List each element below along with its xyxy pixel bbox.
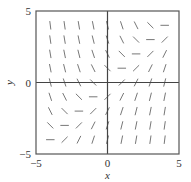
x-tick-label: −5 bbox=[30, 157, 42, 169]
slope-segment bbox=[134, 22, 138, 30]
slope-segment bbox=[121, 121, 123, 129]
slope-segment bbox=[135, 93, 138, 101]
slope-segment bbox=[92, 21, 94, 29]
slope-segment bbox=[77, 136, 81, 144]
slope-segment bbox=[164, 135, 165, 143]
slope-segment bbox=[78, 50, 80, 58]
slope-segment bbox=[62, 137, 68, 143]
slope-segment bbox=[119, 51, 125, 57]
slope-segment bbox=[120, 21, 123, 29]
x-tick-label: 5 bbox=[176, 157, 182, 169]
slope-segment bbox=[76, 122, 82, 128]
y-tick-labels: −505 bbox=[19, 5, 31, 160]
slope-segment bbox=[133, 65, 139, 71]
slope-segment bbox=[135, 121, 137, 129]
slope-segment bbox=[50, 35, 51, 43]
y-tick-label: 5 bbox=[26, 5, 32, 17]
slope-segment bbox=[120, 93, 124, 101]
slope-segment bbox=[50, 21, 51, 29]
slope-segment bbox=[92, 35, 94, 43]
slope-segment bbox=[64, 50, 66, 58]
slope-segment bbox=[63, 93, 67, 101]
slope-segment bbox=[92, 136, 95, 144]
slope-segment bbox=[50, 50, 51, 58]
slope-segment bbox=[149, 93, 151, 101]
slope-segment bbox=[150, 135, 151, 143]
slope-segment bbox=[64, 35, 65, 43]
x-axis-label: x bbox=[104, 169, 110, 181]
slope-segment bbox=[163, 50, 167, 58]
slope-segment bbox=[62, 108, 68, 114]
slope-segment bbox=[120, 107, 123, 115]
x-tick-labels: −505 bbox=[30, 157, 182, 169]
slope-segment bbox=[47, 122, 53, 128]
slope-segment bbox=[64, 21, 65, 29]
slope-segment bbox=[92, 50, 95, 58]
slope-segment bbox=[78, 64, 81, 72]
slope-field-chart: −505 −505 x y bbox=[0, 0, 191, 182]
slope-segment bbox=[133, 37, 139, 43]
slope-segment bbox=[147, 51, 153, 57]
slope-segment bbox=[150, 121, 151, 129]
slope-segment bbox=[162, 37, 168, 43]
y-tick-label: 0 bbox=[26, 77, 32, 89]
slope-segment bbox=[48, 107, 52, 115]
slope-segment bbox=[149, 64, 153, 72]
slope-segment bbox=[164, 107, 165, 115]
slope-segment bbox=[120, 36, 124, 44]
slope-segment bbox=[49, 93, 52, 101]
slope-segment bbox=[135, 136, 136, 144]
slope-segment bbox=[91, 64, 95, 72]
slope-segment bbox=[49, 64, 51, 72]
slope-segment bbox=[164, 121, 165, 129]
slope-segment bbox=[163, 64, 166, 72]
y-tick-label: −5 bbox=[19, 148, 31, 160]
slope-segment bbox=[64, 64, 66, 72]
slope-segment bbox=[91, 122, 95, 130]
slope-segment bbox=[78, 21, 79, 29]
x-tick-label: 0 bbox=[105, 157, 111, 169]
slope-segment bbox=[121, 136, 123, 144]
slope-segment bbox=[76, 94, 82, 100]
slope-segment bbox=[164, 93, 166, 101]
slope-segment bbox=[135, 107, 137, 115]
slope-segment bbox=[78, 35, 80, 43]
slope-segment bbox=[90, 108, 96, 114]
slope-segment bbox=[150, 107, 152, 115]
slope-segment bbox=[147, 22, 153, 28]
y-axis-label: y bbox=[3, 80, 15, 86]
